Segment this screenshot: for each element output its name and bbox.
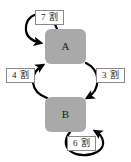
edge-label-a-self: 7 割	[35, 10, 64, 25]
state-node-a-label: A	[62, 41, 70, 52]
edge-label-b-to-a: 4 割	[6, 68, 35, 83]
edge-label-a-to-b: 3 割	[96, 68, 125, 83]
edge-label-b-self: 6 割	[67, 136, 96, 151]
state-transition-diagram: A B 7 割 4 割 3 割 6 割	[0, 0, 131, 162]
edge-label-b-self-text: 6 割	[73, 139, 90, 148]
state-node-a: A	[45, 29, 86, 64]
edge-b-to-a-arrow	[33, 65, 47, 98]
edge-label-a-self-text: 7 割	[41, 13, 58, 22]
edge-label-b-to-a-text: 4 割	[12, 71, 29, 80]
state-node-b-label: B	[62, 109, 69, 120]
edge-label-a-to-b-text: 3 割	[102, 71, 119, 80]
state-node-b: B	[45, 97, 86, 132]
